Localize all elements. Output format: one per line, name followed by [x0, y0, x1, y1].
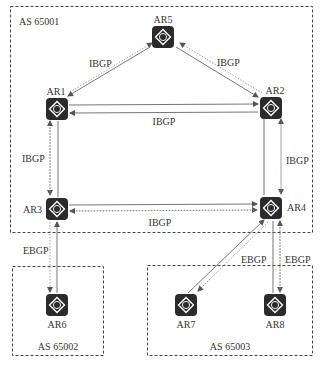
router-icon — [264, 294, 286, 316]
link-label-ar1-ar2: IBGP — [153, 116, 176, 127]
link-label-ar3-ar4: IBGP — [149, 217, 172, 228]
as-label-65002: AS 65002 — [38, 341, 78, 352]
router-label-ar8: AR8 — [266, 319, 285, 330]
router-label-ar6: AR6 — [48, 319, 67, 330]
router-ar5[interactable]: AR5 — [152, 14, 174, 48]
router-icon — [46, 98, 68, 120]
link-label-ar4-ar8: EBGP — [285, 254, 311, 265]
as-label-65001: AS 65001 — [19, 16, 59, 27]
link-ar1-ar3: IBGP — [22, 121, 58, 197]
router-label-ar1: AR1 — [47, 86, 66, 97]
link-label-ar3-ar6: EBGP — [23, 245, 49, 256]
router-label-ar2: AR2 — [266, 85, 285, 96]
router-ar8[interactable]: AR8 — [264, 294, 286, 330]
router-ar4[interactable]: AR4 — [260, 197, 306, 219]
router-icon — [152, 26, 174, 48]
router-icon — [46, 294, 68, 316]
router-ar1[interactable]: AR1 — [46, 86, 68, 120]
router-ar7[interactable]: AR7 — [175, 294, 197, 330]
link-ar5-ar1: IBGP — [68, 43, 152, 96]
link-ar4-ar8: EBGP — [273, 221, 311, 293]
link-label-ar2-ar4: IBGP — [286, 155, 309, 166]
link-label-ar5-ar2: IBGP — [217, 57, 240, 68]
link-label-ar4-ar7: EBGP — [241, 254, 267, 265]
router-label-ar3: AR3 — [23, 204, 42, 215]
router-ar6[interactable]: AR6 — [46, 294, 68, 330]
link-ar5-ar2: IBGP — [176, 43, 262, 97]
router-label-ar7: AR7 — [177, 319, 196, 330]
link-ar3-ar4: IBGP — [69, 204, 257, 228]
router-ar2[interactable]: AR2 — [260, 85, 284, 119]
router-icon — [46, 198, 68, 220]
as-label-65003: AS 65003 — [210, 341, 250, 352]
link-ar4-ar7: EBGP — [188, 220, 268, 293]
link-label-ar5-ar1: IBGP — [89, 58, 112, 69]
bgp-topology-diagram: AS 65001 AS 65002 AS 65003 IBGP IBGP IBG… — [0, 0, 320, 365]
router-icon — [260, 97, 282, 119]
router-label-ar4: AR4 — [287, 202, 306, 213]
router-icon — [260, 197, 282, 219]
router-icon — [175, 294, 197, 316]
router-label-ar5: AR5 — [154, 14, 173, 25]
link-ar1-ar2: IBGP — [69, 104, 258, 127]
link-label-ar1-ar3: IBGP — [22, 153, 45, 164]
as-box-65003: AS 65003 — [148, 266, 313, 356]
link-ar2-ar4: IBGP — [264, 119, 309, 195]
router-ar3[interactable]: AR3 — [23, 198, 68, 220]
